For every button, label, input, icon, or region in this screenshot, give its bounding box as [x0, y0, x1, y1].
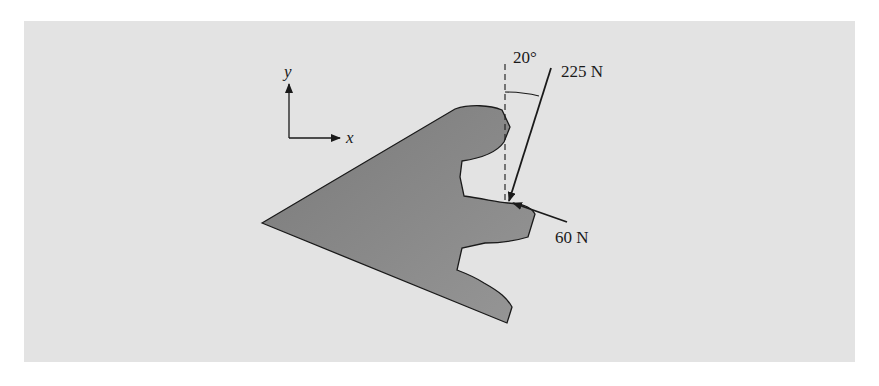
- force-60-label: 60 N: [555, 229, 589, 246]
- force-225-label: 225 N: [561, 63, 603, 80]
- angle-arc: [505, 92, 539, 96]
- x-axis-label: x: [346, 129, 354, 146]
- free-body-diagram: [0, 0, 879, 386]
- y-axis-label: y: [284, 63, 292, 80]
- force-225-arrow: [509, 68, 551, 201]
- angle-label: 20°: [513, 49, 537, 66]
